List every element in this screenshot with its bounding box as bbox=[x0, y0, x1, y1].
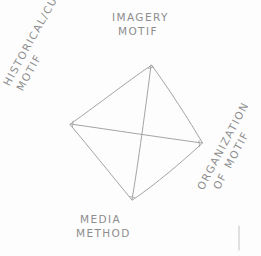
edge-top-right bbox=[152, 65, 203, 143]
diagonal-left-right bbox=[71, 124, 203, 143]
axis-label-media-method: MEDIA METHOD bbox=[80, 212, 131, 240]
edge-right-bottom bbox=[133, 144, 203, 201]
sketch-canvas: IMAGERY MOTIF HISTORICAL/CULTURAL MOTIF … bbox=[0, 0, 261, 256]
axis-label-imagery-motif-line-2: MOTIF bbox=[118, 24, 169, 38]
vertex-tick-right bbox=[199, 141, 200, 147]
diagonal-top-bottom bbox=[132, 66, 151, 200]
edge-top-left bbox=[71, 66, 152, 125]
axis-label-imagery-motif: IMAGERY MOTIF bbox=[112, 10, 169, 38]
axis-label-media-method-line-2: METHOD bbox=[76, 226, 131, 240]
axis-label-media-method-line-1: MEDIA bbox=[80, 212, 131, 226]
vertex-tick-left bbox=[73, 121, 74, 128]
axis-label-imagery-motif-line-1: IMAGERY bbox=[112, 10, 169, 24]
edge-bottom-left bbox=[70, 125, 132, 201]
